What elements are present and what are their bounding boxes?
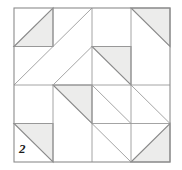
diagonal-2-2 — [92, 85, 131, 124]
diagonal-3-2 — [92, 124, 131, 163]
triangle-0-0 — [14, 8, 53, 47]
quilt-block-figure: 2 — [0, 0, 182, 170]
triangle-2-1 — [53, 85, 92, 124]
diagonal-1-0 — [14, 47, 53, 86]
triangle-3-3 — [131, 124, 170, 163]
diagonal-0-1 — [53, 8, 92, 47]
diagonal-1-1 — [53, 47, 92, 86]
block-number-label: 2 — [19, 142, 26, 155]
quilt-pattern-svg — [0, 0, 182, 170]
triangle-0-3 — [131, 8, 170, 47]
triangle-1-2 — [92, 47, 131, 86]
diagonal-2-3 — [131, 85, 170, 124]
